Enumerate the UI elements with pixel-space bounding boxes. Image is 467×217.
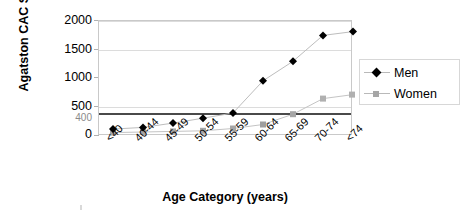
women-point-8 <box>349 92 355 98</box>
x-axis-title: Age Category (years) <box>98 190 352 204</box>
series-layer <box>99 21 353 136</box>
women-point-6 <box>290 111 296 117</box>
y-axis-tick-labels: 2000 1500 1000 500 400 0 <box>44 0 92 217</box>
plot-area <box>98 20 352 135</box>
y-axis-title: Agatston CAC Score <box>15 0 33 106</box>
legend-entry-men: Men <box>360 61 459 84</box>
women-point-7 <box>320 96 326 102</box>
legend-label-men: Men <box>394 66 418 80</box>
scan-artifact <box>80 205 82 210</box>
threshold-value-label: 400 <box>46 112 92 124</box>
legend-marker-diamond-icon <box>360 61 394 84</box>
y-tick-label-0: 0 <box>46 128 92 140</box>
legend-entry-women: Women <box>360 82 459 105</box>
x-axis-tick-labels: <40 40-44 45-49 50-54 55-59 60-64 65-69 … <box>98 136 352 184</box>
men-point-8 <box>349 28 357 36</box>
y-tick-label-500: 500 <box>46 100 92 112</box>
chart-legend: Men Women <box>359 59 460 105</box>
y-tick-label-2000: 2000 <box>46 14 92 26</box>
cac-score-line-chart: Agatston CAC Score 2000 1500 1000 500 40… <box>0 0 467 217</box>
legend-label-women: Women <box>394 87 437 101</box>
y-tick-label-1000: 1000 <box>46 71 92 83</box>
men-markers <box>109 28 357 134</box>
legend-marker-square-icon <box>360 82 394 105</box>
y-tick-label-1500: 1500 <box>46 43 92 55</box>
